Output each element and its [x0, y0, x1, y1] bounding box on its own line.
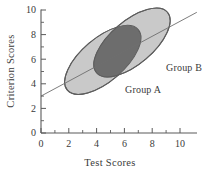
group-b-label: Group B: [166, 62, 202, 73]
y-tick-label-6: 6: [31, 54, 36, 65]
scatter-plot-figure: 0 2 4 6 8 10 0 2 4 6 8 10 Test Scores Cr…: [0, 0, 218, 176]
x-axis-title: Test Scores: [84, 157, 135, 168]
x-tick-label-10: 10: [175, 138, 185, 149]
y-tick-label-4: 4: [31, 78, 36, 89]
chart-canvas: 0 2 4 6 8 10 0 2 4 6 8 10 Test Scores Cr…: [0, 0, 218, 176]
y-tick-label-10: 10: [26, 4, 36, 15]
x-tick-label-4: 4: [94, 138, 99, 149]
group-a-label: Group A: [125, 84, 162, 95]
y-tick-label-2: 2: [31, 103, 36, 114]
x-tick-label-0: 0: [39, 138, 44, 149]
x-tick-label-8: 8: [150, 138, 155, 149]
y-tick-label-8: 8: [31, 29, 36, 40]
x-tick-label-2: 2: [66, 138, 71, 149]
y-axis-title: Criterion Scores: [5, 34, 16, 107]
x-tick-label-6: 6: [122, 138, 127, 149]
y-tick-label-0: 0: [31, 127, 36, 138]
